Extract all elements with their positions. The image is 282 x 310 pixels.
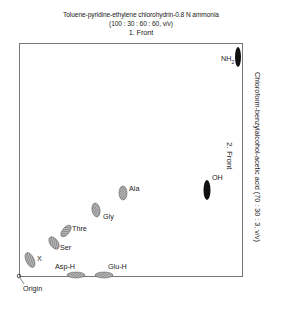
asp-label: Asp-H [55, 262, 75, 271]
ser-label: Ser [60, 243, 71, 252]
ala-spot [119, 186, 127, 200]
nh2-label: NH2 [221, 54, 234, 65]
ala-label: Ala [129, 184, 139, 193]
glu-spot [95, 272, 113, 278]
x-label: X [37, 254, 42, 263]
oh-label: OH [212, 173, 223, 182]
asp-spot [67, 272, 85, 278]
nh2-spot [235, 47, 241, 67]
origin-label: Origin [23, 284, 42, 293]
x-spot [23, 251, 37, 269]
gly-spot [91, 202, 101, 217]
spots-diagram [0, 0, 282, 310]
glu-label: Glu-H [108, 262, 127, 271]
oh-spot [204, 180, 211, 200]
gly-label: Gly [103, 212, 114, 221]
thre-label: Thre [72, 224, 87, 233]
origin-marker [17, 274, 21, 278]
